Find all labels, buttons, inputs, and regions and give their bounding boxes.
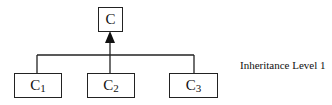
child-class-subscript: 1 (40, 82, 46, 94)
inheritance-arrowhead-icon (105, 31, 115, 43)
parent-class-label: C (105, 11, 115, 28)
child-class-label: C (103, 77, 113, 94)
parent-class-box: C (98, 7, 123, 32)
child-class-label: C (30, 77, 40, 94)
child-class-subscript: 3 (196, 82, 202, 94)
child-class-box-c2: C2 (87, 73, 135, 98)
child-class-subscript: 2 (113, 82, 119, 94)
child-class-box-c3: C3 (169, 73, 218, 98)
inheritance-level-annotation: Inheritance Level 1 (240, 59, 326, 71)
child-class-label: C (186, 77, 196, 94)
inheritance-diagram: C C1 C2 C3 Inheritance Level 1 (0, 0, 332, 105)
child-class-box-c1: C1 (14, 73, 62, 98)
